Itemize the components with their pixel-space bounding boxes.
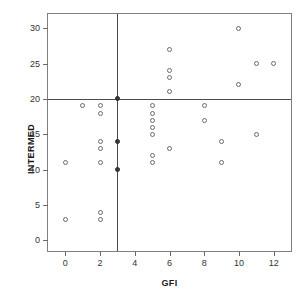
x-axis-tick-label: 4 bbox=[132, 259, 137, 268]
data-point bbox=[202, 103, 207, 108]
y-axis-tick bbox=[43, 28, 48, 29]
y-axis-tick bbox=[43, 240, 48, 241]
data-point bbox=[236, 26, 241, 31]
data-point bbox=[98, 160, 103, 165]
x-axis-tick-label: 2 bbox=[98, 259, 103, 268]
x-axis-tick-label: 6 bbox=[167, 259, 172, 268]
x-axis-tick bbox=[204, 251, 205, 256]
data-point bbox=[254, 61, 259, 66]
vertical-reference-line bbox=[117, 14, 118, 251]
y-axis-tick-label: 20 bbox=[30, 94, 40, 103]
data-point bbox=[98, 217, 103, 222]
y-axis-tick-label: 25 bbox=[30, 59, 40, 68]
data-point bbox=[115, 96, 120, 101]
data-point bbox=[150, 103, 155, 108]
data-point bbox=[150, 132, 155, 137]
x-axis-tick-label: 0 bbox=[63, 259, 68, 268]
y-axis-tick-label: 5 bbox=[35, 201, 40, 210]
data-point bbox=[98, 139, 103, 144]
y-axis-tick-label: 15 bbox=[30, 130, 40, 139]
x-axis-tick bbox=[65, 251, 66, 256]
y-axis-tick-label: 0 bbox=[35, 236, 40, 245]
data-point bbox=[254, 132, 259, 137]
x-axis-tick-label: 8 bbox=[202, 259, 207, 268]
data-point bbox=[167, 47, 172, 52]
data-point bbox=[150, 118, 155, 123]
plot-frame: 051015202530024681012 bbox=[47, 13, 292, 252]
data-point bbox=[167, 89, 172, 94]
data-point bbox=[167, 68, 172, 73]
y-axis-tick-label: 30 bbox=[30, 24, 40, 33]
y-axis-tick bbox=[43, 134, 48, 135]
y-axis-tick-label: 10 bbox=[30, 165, 40, 174]
x-axis-tick-label: 12 bbox=[269, 259, 279, 268]
data-point bbox=[98, 210, 103, 215]
data-point bbox=[98, 146, 103, 151]
x-axis-tick bbox=[100, 251, 101, 256]
data-point bbox=[150, 125, 155, 130]
plot-area: 051015202530024681012 bbox=[48, 14, 291, 251]
y-axis-tick bbox=[43, 64, 48, 65]
data-point bbox=[115, 167, 120, 172]
data-point bbox=[98, 103, 103, 108]
x-axis-tick bbox=[274, 251, 275, 256]
data-point bbox=[236, 82, 241, 87]
data-point bbox=[150, 111, 155, 116]
y-axis-tick bbox=[43, 205, 48, 206]
data-point bbox=[219, 139, 224, 144]
x-axis-title: GFI bbox=[47, 278, 292, 288]
data-point bbox=[271, 61, 276, 66]
scatter-plot: INTERMED 051015202530024681012 GFI bbox=[0, 0, 308, 297]
y-axis-tick bbox=[43, 170, 48, 171]
data-point bbox=[219, 160, 224, 165]
x-axis-tick bbox=[170, 251, 171, 256]
x-axis-tick-label: 10 bbox=[234, 259, 244, 268]
data-point bbox=[167, 75, 172, 80]
x-axis-tick bbox=[239, 251, 240, 256]
x-axis-tick bbox=[135, 251, 136, 256]
data-point bbox=[150, 153, 155, 158]
horizontal-reference-line bbox=[48, 99, 291, 100]
data-point bbox=[80, 103, 85, 108]
data-point bbox=[202, 118, 207, 123]
data-point bbox=[63, 160, 68, 165]
data-point bbox=[115, 139, 120, 144]
data-point bbox=[98, 111, 103, 116]
data-point bbox=[167, 146, 172, 151]
data-point bbox=[150, 160, 155, 165]
data-point bbox=[63, 217, 68, 222]
